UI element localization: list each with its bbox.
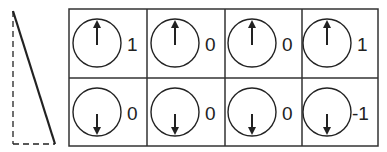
cell-0-1 <box>151 19 199 67</box>
cell-value-0-1: 0 <box>205 35 216 54</box>
cell-value-1-1: 0 <box>205 104 216 123</box>
arrow-down-icon <box>323 114 331 135</box>
arrow-down-icon <box>171 114 179 135</box>
arrow-up-icon <box>171 20 179 45</box>
cell-1-0 <box>73 88 121 136</box>
arrow-up-icon <box>248 20 256 45</box>
cell-0-0 <box>73 19 121 67</box>
cell-1-2 <box>228 88 276 136</box>
cell-1-3 <box>303 88 351 136</box>
cell-value-1-3: -1 <box>352 104 369 123</box>
diagram-canvas <box>0 0 387 152</box>
grid <box>69 9 378 146</box>
cell-value-1-2: 0 <box>282 104 293 123</box>
arrow-down-icon <box>248 114 256 135</box>
arrow-down-icon <box>93 114 101 135</box>
cell-0-2 <box>228 19 276 67</box>
triangle-hypotenuse <box>13 11 55 144</box>
cell-value-0-0: 1 <box>127 35 138 54</box>
arrow-up-icon <box>93 20 101 45</box>
cell-1-1 <box>151 88 199 136</box>
cell-0-3 <box>303 19 351 67</box>
cell-value-0-3: 1 <box>357 35 368 54</box>
cell-value-1-0: 0 <box>127 104 138 123</box>
arrow-up-icon <box>323 20 331 45</box>
cell-value-0-2: 0 <box>282 35 293 54</box>
triangle-figure <box>13 11 55 144</box>
